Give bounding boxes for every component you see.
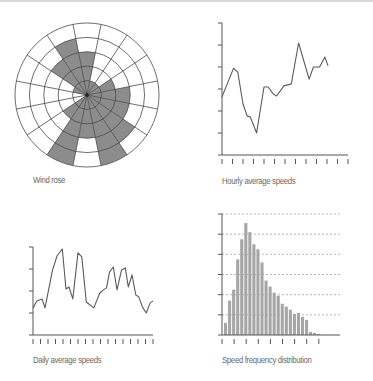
histogram-bar <box>293 314 296 335</box>
hourly-panel <box>186 0 373 190</box>
histogram-bar <box>277 296 280 335</box>
histogram-bar <box>252 244 255 335</box>
daily-caption: Daily average speeds <box>33 354 101 365</box>
frequency-panel <box>186 190 373 381</box>
histogram-bar <box>224 323 227 335</box>
speed-frequency-chart <box>186 190 373 350</box>
histogram-bar <box>256 249 259 335</box>
daily-panel <box>0 190 186 381</box>
daily-speed-chart <box>0 190 186 350</box>
frequency-caption: Speed frequency distribution <box>222 354 312 365</box>
data-line <box>222 43 328 133</box>
data-line <box>33 249 153 313</box>
histogram-bar <box>273 293 276 335</box>
histogram-bar <box>305 320 308 335</box>
histogram-bar <box>297 313 300 335</box>
hourly-speed-chart <box>186 0 373 170</box>
wind-rose-center <box>85 93 89 97</box>
histogram-bar <box>265 281 268 335</box>
wind-rose-caption: Wind rose <box>33 174 65 185</box>
histogram-bar <box>289 310 292 335</box>
wind-rose-panel <box>0 0 186 190</box>
histogram-bar <box>240 239 243 335</box>
histogram-bar <box>301 317 304 335</box>
histogram-bar <box>232 290 235 335</box>
histogram-bar <box>285 307 288 335</box>
histogram-bar <box>281 304 284 335</box>
histogram-bar <box>269 287 272 335</box>
histogram-bar <box>228 301 231 335</box>
histogram-bar <box>260 262 263 335</box>
histogram-bar <box>248 232 251 335</box>
histogram-bar <box>236 259 239 335</box>
wind-rose-chart <box>0 0 186 170</box>
hourly-caption: Hourly average speeds <box>222 175 295 186</box>
histogram-bar <box>244 223 247 335</box>
